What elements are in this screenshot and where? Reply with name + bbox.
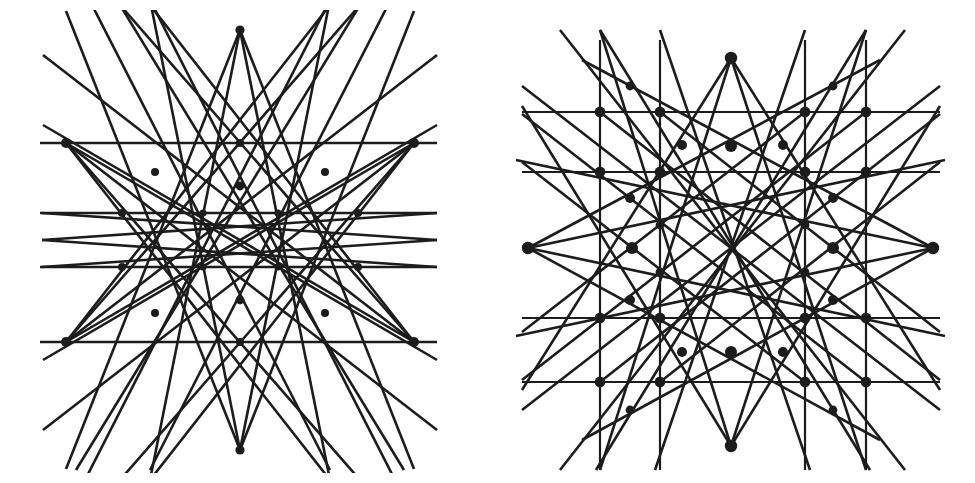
node [861,313,872,324]
node [778,347,788,357]
node [354,263,362,271]
node [595,377,606,388]
node [236,182,245,191]
node [655,313,666,324]
node [151,168,159,176]
node [321,168,329,176]
node [677,347,687,357]
node [656,268,665,277]
node [778,140,788,150]
node [118,263,126,271]
node [61,337,71,347]
node [725,140,737,152]
node [626,82,635,91]
node [522,242,534,254]
node [595,107,606,118]
node [861,377,872,388]
node [354,209,362,217]
node [626,242,638,254]
node [800,377,811,388]
node [656,221,665,230]
node [236,338,244,346]
node [199,263,206,270]
node [655,377,666,388]
node [321,309,329,317]
node [725,440,737,452]
node [235,445,244,454]
node [800,107,811,118]
node [800,313,811,324]
figure-panel [0,0,975,483]
node [801,221,810,230]
node [861,107,872,118]
node [626,406,635,415]
node [828,193,838,203]
node [827,242,839,254]
node [677,140,687,150]
node [725,346,737,358]
node [625,295,635,305]
node [409,138,419,148]
node [861,167,872,178]
node [655,167,666,178]
node [595,313,606,324]
node [409,337,419,347]
node [625,193,635,203]
node [829,82,838,91]
node [725,52,737,64]
figures-svg [0,0,975,483]
node [61,138,71,148]
node [595,167,606,178]
node [274,263,281,270]
node [927,242,939,254]
node [235,25,244,34]
node [236,296,245,305]
node [274,209,281,216]
node [828,295,838,305]
node [800,167,811,178]
node [829,406,838,415]
node [236,139,244,147]
node [151,309,159,317]
node [199,209,206,216]
node [801,268,810,277]
node [118,209,126,217]
node [655,107,666,118]
